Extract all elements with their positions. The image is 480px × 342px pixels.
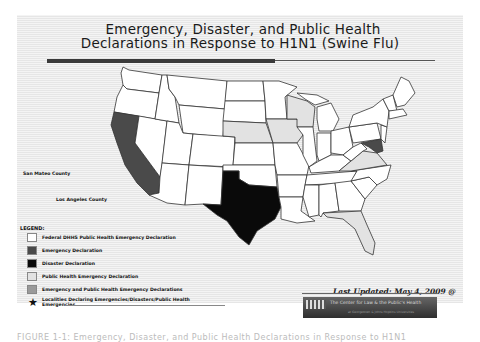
banner-subtext: at Georgetown & Johns Hopkins Universiti… <box>348 310 414 314</box>
legend-label: Emergency Declaration <box>42 248 192 253</box>
legend-swatch-dark-gray <box>27 246 37 255</box>
legend-item-federal: Federal DHHS Public Health Emergency Dec… <box>27 233 192 242</box>
banner-logo-icon <box>306 300 326 309</box>
state-maine <box>393 77 415 107</box>
legend-label: Emergency and Public Health Emergency De… <box>42 287 212 292</box>
state-florida <box>323 211 375 255</box>
state-mississippi <box>303 185 319 217</box>
state-massachusetts-ct-ri <box>389 109 407 119</box>
legend-item-disaster: Disaster Declaration <box>27 259 192 268</box>
legend-item-emergency-and-phe: Emergency and Public Health Emergency De… <box>27 285 212 294</box>
legend-title: LEGEND: <box>20 225 44 231</box>
legend-swatch-white <box>27 233 37 242</box>
organization-banner: The Center for Law & the Public's Health… <box>303 297 437 318</box>
state-wyoming <box>179 105 225 137</box>
state-arkansas <box>277 175 307 197</box>
legend-swatch-medium-gray <box>27 285 37 294</box>
state-michigan <box>317 103 339 131</box>
banner-text: The Center for Law & the Public's Health <box>330 300 421 305</box>
state-new-mexico <box>185 165 223 205</box>
legend-item-phe: Public Health Emergency Declaration <box>27 272 192 281</box>
legend-swatch-black <box>27 259 37 268</box>
legend-divider <box>65 305 225 306</box>
slide: Emergency, Disaster, and Public Health D… <box>17 15 463 303</box>
state-north-dakota <box>225 81 265 101</box>
county-label-los-angeles: Los Angeles County <box>56 197 107 202</box>
state-south-dakota <box>223 101 266 123</box>
legend-label: Public Health Emergency Declaration <box>42 274 192 279</box>
state-new-york <box>349 99 389 127</box>
last-updated-line-1: Last Updated: May 4, 2009 @ <box>333 287 456 296</box>
state-colorado <box>189 134 235 167</box>
state-kansas <box>233 143 275 165</box>
legend-swatch-light-gray <box>27 272 37 281</box>
banner-divider <box>302 293 437 294</box>
state-new-jersey <box>381 125 387 143</box>
legend-item-emergency: Emergency Declaration <box>27 246 192 255</box>
county-label-san-mateo: San Mateo County <box>23 171 70 176</box>
legend-label: Disaster Declaration <box>42 261 192 266</box>
figure-caption: FIGURE 1-1: Emergency, Disaster, and Pub… <box>17 333 406 342</box>
star-icon: ★ <box>27 297 39 307</box>
legend-label: Federal DHHS Public Health Emergency Dec… <box>42 235 192 240</box>
